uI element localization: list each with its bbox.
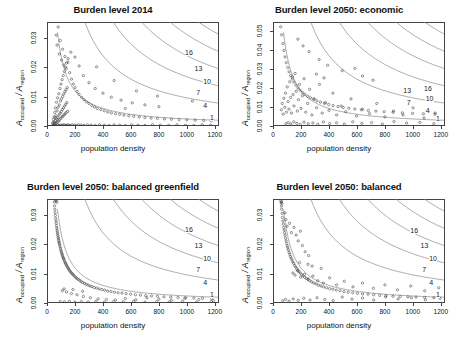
- contour-label: 4: [203, 102, 208, 109]
- data-point: [55, 115, 57, 117]
- data-point: [281, 208, 283, 210]
- data-point: [124, 124, 126, 126]
- y-tick-label: 0.02: [25, 61, 43, 73]
- data-point: [191, 100, 193, 102]
- data-point: [299, 230, 301, 232]
- data-point: [372, 287, 374, 289]
- x-tick-label: 1200: [427, 308, 452, 315]
- contour-line-7: [113, 22, 218, 86]
- data-point: [316, 100, 318, 102]
- data-point: [144, 116, 146, 118]
- data-point: [150, 117, 152, 119]
- contour-line-13: [169, 199, 219, 228]
- data-point: [93, 106, 95, 108]
- data-point: [100, 108, 102, 110]
- data-point: [80, 124, 82, 126]
- y-tickmark: [44, 215, 47, 216]
- data-point: [113, 124, 115, 126]
- contour-label: 10: [429, 255, 438, 262]
- y-axis-title-sub-occupied: occupied: [245, 98, 251, 120]
- x-tickmark: [385, 303, 386, 306]
- data-point: [117, 292, 119, 294]
- data-point: [355, 115, 357, 117]
- y-tick-label: 0.03: [25, 32, 43, 44]
- data-point: [287, 100, 289, 102]
- data-point: [303, 297, 305, 299]
- y-tickmark: [44, 274, 47, 275]
- data-point: [54, 107, 56, 109]
- contour-label: 4: [203, 279, 208, 286]
- x-tickmark: [441, 126, 442, 129]
- data-point: [321, 112, 323, 114]
- data-point: [121, 292, 123, 294]
- data-point: [284, 106, 286, 108]
- data-point: [332, 288, 334, 290]
- data-point: [133, 300, 135, 302]
- contour-label: 1: [210, 291, 215, 298]
- data-point: [288, 108, 290, 110]
- y-axis-title-separator: / A: [240, 85, 250, 97]
- y-axis-title-separator: / A: [240, 262, 250, 274]
- data-point: [305, 111, 307, 113]
- data-point: [63, 93, 65, 95]
- data-point: [176, 124, 178, 126]
- data-point: [402, 114, 404, 116]
- data-point: [348, 107, 350, 109]
- plot-area: 161310741: [273, 199, 445, 303]
- data-point: [384, 284, 386, 286]
- data-point: [59, 100, 61, 102]
- data-point: [315, 107, 317, 109]
- y-axis-title-sub-occupied: occupied: [19, 275, 25, 297]
- data-point: [129, 293, 131, 295]
- data-point: [74, 86, 76, 88]
- data-point: [372, 79, 374, 81]
- data-point: [54, 111, 56, 113]
- x-tick-label: 800: [145, 131, 173, 138]
- data-point: [297, 99, 299, 101]
- data-point: [68, 300, 70, 302]
- y-tickmark: [270, 50, 273, 51]
- contour-label: 13: [194, 242, 203, 249]
- data-point: [328, 109, 330, 111]
- data-point: [383, 111, 385, 113]
- data-point: [282, 223, 284, 225]
- data-point: [399, 295, 401, 297]
- y-tick-label: 0.02: [251, 238, 269, 250]
- data-point: [280, 109, 282, 111]
- y-tick-label: 0.03: [25, 209, 43, 221]
- data-point: [373, 294, 375, 296]
- data-point: [280, 205, 282, 207]
- y-tick-label-text: 0.02: [28, 61, 40, 74]
- data-point: [343, 123, 345, 125]
- data-point: [59, 39, 61, 41]
- y-axis-title-sub-occupied: occupied: [19, 98, 25, 120]
- data-point: [412, 107, 414, 109]
- data-point: [293, 121, 295, 123]
- y-tick-label: 0.02: [25, 238, 43, 250]
- y-axis-title-sub-occupied: occupied: [245, 275, 251, 297]
- data-point: [60, 98, 62, 100]
- data-point: [356, 292, 358, 294]
- data-point: [350, 98, 352, 100]
- data-point: [137, 124, 139, 126]
- x-tickmark: [357, 303, 358, 306]
- data-point: [168, 124, 170, 126]
- data-point: [304, 251, 306, 253]
- y-tickmark: [44, 67, 47, 68]
- contour-lines: [284, 22, 445, 120]
- data-point: [323, 77, 325, 79]
- data-point: [195, 301, 197, 303]
- x-tick-label: 800: [145, 308, 173, 315]
- contour-label: 4: [429, 279, 434, 286]
- data-point: [328, 288, 330, 290]
- data-point: [139, 294, 141, 296]
- y-tick-label: 0.01: [251, 268, 269, 280]
- x-tick-label: 200: [61, 131, 89, 138]
- data-point: [119, 124, 121, 126]
- contour-line-16: [197, 199, 218, 211]
- x-tick-label: 1000: [173, 131, 201, 138]
- contour-label: 10: [203, 78, 212, 85]
- data-point: [318, 58, 320, 60]
- data-point: [69, 72, 71, 74]
- data-point: [281, 212, 283, 214]
